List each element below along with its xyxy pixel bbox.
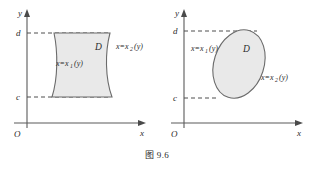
diagram-left-panel: y x O d c D x=x 1 (y) x=x 2 (y)	[0, 0, 157, 148]
y-axis-label-right: y	[174, 8, 179, 18]
origin-label-right: O	[171, 129, 178, 139]
curve-label-x2-arg-right: (y)	[279, 73, 288, 82]
x-axis-label-left: x	[139, 128, 144, 138]
figure-caption: 图 9.6	[0, 148, 314, 161]
x-axis-arrow-right	[295, 120, 303, 126]
region-label-left: D	[94, 42, 102, 52]
curve-label-x2-prefix-left: x=x	[115, 42, 129, 51]
curve-label-x1-arg-right: (y)	[209, 44, 218, 53]
region-label-right: D	[242, 44, 250, 54]
curve-label-x1-subscript-right: 1	[205, 48, 208, 54]
curve-label-x1-prefix-left: x=x	[55, 59, 69, 68]
curve-label-x2-right: x=x 2 (y)	[260, 73, 288, 83]
curve-label-x2-prefix-right: x=x	[260, 73, 274, 82]
tick-label-c-right: c	[173, 93, 177, 103]
curve-label-x1-arg-left: (y)	[74, 59, 83, 68]
y-axis-arrow-right	[181, 9, 187, 17]
y-axis-label-left: y	[17, 8, 22, 18]
y-axis-arrow-left	[24, 9, 30, 17]
tick-label-d-right: d	[173, 26, 178, 36]
curve-label-x2-subscript-right: 2	[275, 77, 278, 83]
diagram-right-panel: y x O d c D x=x 1 (y) x=x 2 (y)	[157, 0, 314, 148]
curve-label-x2-arg-left: (y)	[134, 42, 143, 51]
x-axis-label-right: x	[296, 128, 301, 138]
curve-label-x1-right: x=x 1 (y)	[190, 44, 218, 54]
region-D-shape-right	[204, 23, 273, 105]
curve-label-x1-prefix-right: x=x	[190, 44, 204, 53]
tick-label-d-left: d	[16, 28, 21, 38]
figure-container: y x O d c D x=x 1 (y) x=x 2 (y)	[0, 0, 314, 171]
x-axis-arrow-left	[138, 120, 146, 126]
curve-label-x1-subscript-left: 1	[70, 63, 73, 69]
origin-label-left: O	[14, 129, 21, 139]
curve-label-x2-subscript-left: 2	[130, 46, 133, 52]
curve-label-x2-left: x=x 2 (y)	[115, 42, 143, 52]
tick-label-c-left: c	[16, 92, 20, 102]
